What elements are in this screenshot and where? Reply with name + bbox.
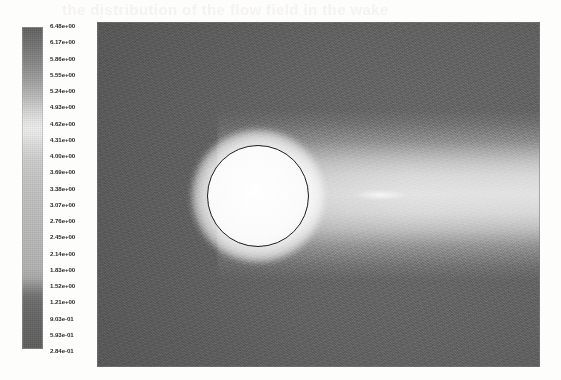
colorbar-tick-label: 2.84e-01: [50, 347, 98, 354]
colorbar-tick-label: 1.21e+00: [50, 298, 98, 305]
shear-layer-spike-tail: [313, 190, 409, 200]
colorbar-tick-label: 1.52e+00: [50, 282, 98, 289]
colorbar-tick-label: 6.48e+00: [50, 22, 98, 29]
colorbar-tick-label: 1.83e+00: [50, 266, 98, 273]
colorbar-tick-label: 4.93e+00: [50, 103, 98, 110]
colorbar-gradient-strip: [22, 27, 43, 349]
colorbar-tick-label: 9.03e-01: [50, 315, 98, 322]
colorbar-tick-label: 4.00e+00: [50, 152, 98, 159]
colorbar-tick-label: 3.69e+00: [50, 168, 98, 175]
colorbar-tick-label: 4.62e+00: [50, 120, 98, 127]
colorbar-tick-label: 3.07e+00: [50, 201, 98, 208]
colorbar-tick-label: 2.76e+00: [50, 217, 98, 224]
colorbar-tick-label-list: 6.48e+00 6.17e+00 5.86e+00 5.55e+00 5.24…: [50, 22, 98, 354]
colorbar-tick-label: 5.55e+00: [50, 71, 98, 78]
colorbar-tick-label: 5.93e-01: [50, 331, 98, 338]
cfd-contour-figure: 6.48e+00 6.17e+00 5.86e+00 5.55e+00 5.24…: [0, 0, 561, 380]
colorbar-tick-label: 4.31e+00: [50, 136, 98, 143]
contour-plot-canvas: [97, 22, 540, 367]
contour-colorbar: 6.48e+00 6.17e+00 5.86e+00 5.55e+00 5.24…: [22, 27, 96, 349]
colorbar-tick-label: 6.17e+00: [50, 38, 98, 45]
colorbar-tick-label: 5.86e+00: [50, 55, 98, 62]
colorbar-tick-label: 2.45e+00: [50, 233, 98, 240]
colorbar-tick-label: 3.38e+00: [50, 185, 98, 192]
colorbar-tick-label: 5.24e+00: [50, 87, 98, 94]
colorbar-tick-label: 2.14e+00: [50, 250, 98, 257]
cylinder-body: [207, 145, 309, 247]
